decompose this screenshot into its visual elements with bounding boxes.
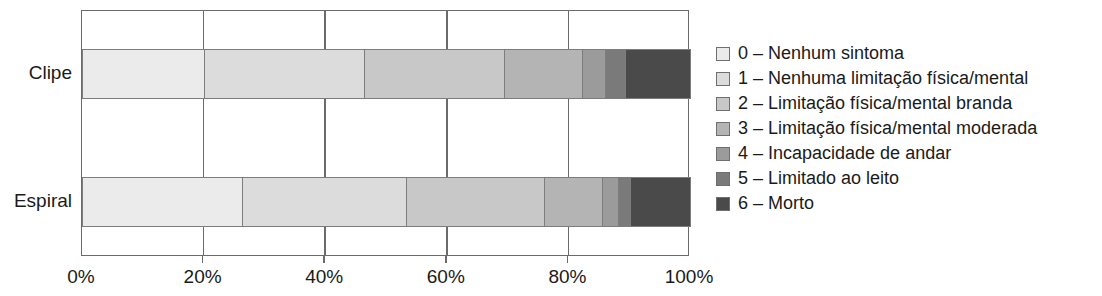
y-axis-label-clipe: Clipe — [29, 62, 72, 84]
x-tick-label-60: 60% — [427, 266, 465, 288]
bar-segment — [406, 177, 545, 227]
legend-label-1: 1 – Nenhuma limitação física/mental — [738, 68, 1028, 89]
bar-segment — [204, 49, 366, 99]
x-tick-mark-80 — [567, 256, 569, 263]
bar-segment — [618, 177, 632, 227]
legend-item-3[interactable]: 3 – Limitação física/mental moderada — [716, 116, 1037, 141]
legend-label-4: 4 – Incapacidade de andar — [738, 143, 951, 164]
legend-item-1[interactable]: 1 – Nenhuma limitação física/mental — [716, 66, 1037, 91]
legend-label-0: 0 – Nenhum sintoma — [738, 43, 904, 64]
bar-segment — [582, 49, 606, 99]
legend-swatch-icon-4 — [716, 147, 730, 161]
legend-label-6: 6 – Morto — [738, 193, 814, 214]
legend-swatch-icon-0 — [716, 47, 730, 61]
x-tick-label-80: 80% — [548, 266, 586, 288]
bar-clipe — [82, 49, 691, 99]
legend-label-2: 2 – Limitação física/mental branda — [738, 93, 1012, 114]
bar-segment — [364, 49, 505, 99]
bar-segment — [630, 177, 691, 227]
x-tick-label-20: 20% — [184, 266, 222, 288]
legend-swatch-icon-6 — [716, 197, 730, 211]
chart-legend: 0 – Nenhum sintoma1 – Nenhuma limitação … — [716, 41, 1037, 216]
legend-swatch-icon-1 — [716, 72, 730, 86]
bar-segment — [602, 177, 619, 227]
bar-segment — [544, 177, 603, 227]
legend-label-5: 5 – Limitado ao leito — [738, 168, 899, 189]
y-axis-label-espiral: Espiral — [14, 190, 72, 212]
legend-swatch-icon-3 — [716, 122, 730, 136]
x-tick-label-0: 0% — [67, 266, 94, 288]
x-tick-mark-20 — [202, 256, 204, 263]
legend-item-6[interactable]: 6 – Morto — [716, 191, 1037, 216]
legend-item-2[interactable]: 2 – Limitação física/mental branda — [716, 91, 1037, 116]
bar-segment — [82, 177, 243, 227]
bar-segment — [82, 49, 205, 99]
x-tick-mark-40 — [323, 256, 325, 263]
x-tick-mark-60 — [445, 256, 447, 263]
legend-item-4[interactable]: 4 – Incapacidade de andar — [716, 141, 1037, 166]
legend-item-5[interactable]: 5 – Limitado ao leito — [716, 166, 1037, 191]
legend-item-0[interactable]: 0 – Nenhum sintoma — [716, 41, 1037, 66]
legend-label-3: 3 – Limitação física/mental moderada — [738, 118, 1037, 139]
x-tick-label-100: 100% — [665, 266, 714, 288]
legend-swatch-icon-5 — [716, 172, 730, 186]
stacked-bar-chart: Clipe Espiral 0%20%40%60%80%100% 0 – Nen… — [0, 0, 1102, 296]
bar-segment — [605, 49, 626, 99]
x-tick-label-40: 40% — [305, 266, 343, 288]
bar-segment — [242, 177, 407, 227]
bar-segment — [625, 49, 691, 99]
bar-segment — [504, 49, 583, 99]
bar-espiral — [82, 177, 691, 227]
legend-swatch-icon-2 — [716, 97, 730, 111]
plot-area — [81, 10, 689, 256]
